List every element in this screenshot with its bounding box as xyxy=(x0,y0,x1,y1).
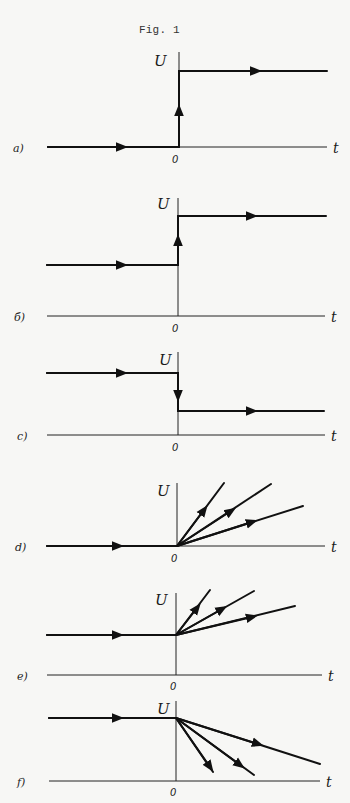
t-axis-label: t xyxy=(326,774,332,790)
panel-label-f: f) xyxy=(16,776,25,789)
panel-label-c: c) xyxy=(17,430,27,443)
arrow-ray-medium xyxy=(177,511,231,546)
panel-label-e: e) xyxy=(17,670,28,683)
origin-label: 0 xyxy=(172,442,178,453)
t-axis-label: t xyxy=(331,539,337,555)
arrow-ray-medium xyxy=(176,609,222,635)
panel-label-b: б) xyxy=(14,311,25,324)
arrow-ray-shallow xyxy=(177,522,252,546)
panel-f: f) U t 0 xyxy=(16,700,332,798)
u-axis-label: U xyxy=(157,195,171,213)
origin-label: 0 xyxy=(170,681,176,692)
arrow-ray-shallow xyxy=(176,718,258,744)
panel-c: c) U t 0 xyxy=(17,351,337,453)
panel-label-d: d) xyxy=(15,541,26,554)
u-axis-label: U xyxy=(159,351,173,369)
arrow-ray-steep xyxy=(177,510,204,546)
panel-a: a) U t 0 xyxy=(13,52,339,165)
t-axis-label: t xyxy=(331,309,337,325)
arrow-ray-medium xyxy=(176,718,240,765)
u-axis-label: U xyxy=(155,591,169,609)
origin-label: 0 xyxy=(172,154,178,165)
t-axis-label: t xyxy=(333,140,339,156)
figure-canvas: a) U t 0 б) U t 0 c) U t 0 xyxy=(0,0,350,803)
panel-label-a: a) xyxy=(13,142,24,155)
arrow-ray-steep xyxy=(176,718,210,767)
panel-b: б) U t 0 xyxy=(14,195,337,334)
u-axis-label: U xyxy=(157,482,171,500)
u-axis-label: U xyxy=(154,52,168,70)
panel-e: e) U t 0 xyxy=(17,590,334,692)
panel-d: d) U t 0 xyxy=(15,482,337,564)
t-axis-label: t xyxy=(331,428,337,444)
origin-label: 0 xyxy=(170,787,176,798)
t-axis-label: t xyxy=(328,668,334,684)
origin-label: 0 xyxy=(172,323,178,334)
u-axis-label: U xyxy=(157,700,171,718)
origin-label: 0 xyxy=(171,553,177,564)
